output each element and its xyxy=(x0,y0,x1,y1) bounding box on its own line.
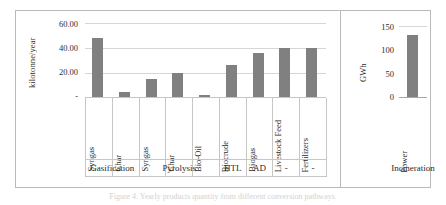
category-incineration: Incineration xyxy=(377,160,446,177)
bar-biogas-ad xyxy=(253,53,264,97)
bar-livestock-feed xyxy=(279,48,290,97)
bar-syngas-pyrolysis xyxy=(146,79,157,98)
right-plot-area xyxy=(400,26,426,97)
bar-slot-biogas xyxy=(246,23,273,97)
x-axis-label-grid: Syngas Char Syngas Char Bio-Oil Biocrude… xyxy=(85,97,326,177)
category-gasification: Gasification xyxy=(86,160,140,177)
panel-divider xyxy=(340,11,341,187)
x-axis-label-grid-right: Power Incineration xyxy=(399,97,427,177)
bar-biocrude-htl xyxy=(226,65,237,97)
left-plot-area xyxy=(85,23,326,97)
category-livestock-feed-dash: - xyxy=(273,160,300,177)
bar-slot-livestock-feed xyxy=(272,23,299,97)
bar-slot-biocrude xyxy=(219,23,246,97)
bar-slot-syngas-gas xyxy=(85,23,112,97)
y-tick-label-0-right: 0 xyxy=(366,92,394,102)
y-tick-label-0: - xyxy=(40,91,78,101)
category-row-right: Incineration xyxy=(399,160,427,177)
bar-syngas-gasification xyxy=(92,38,103,97)
bar-char-pyrolysis xyxy=(172,73,183,97)
bar-slot-fertilizers xyxy=(299,23,326,97)
y-tick-label-40: 40.00 xyxy=(40,43,78,53)
bar-slot-bio-oil xyxy=(192,23,219,97)
bar-slot-char-pyr xyxy=(165,23,192,97)
category-fertilizers-dash: - xyxy=(300,160,327,177)
category-ad: AD xyxy=(247,160,274,177)
y-tick-label-100: 100 xyxy=(366,45,394,55)
bar-slot-char-gas xyxy=(112,23,139,97)
category-pyrolysis: Pyrolysis xyxy=(140,160,220,177)
figure-caption: Figure 4. Yearly products quantity from … xyxy=(0,192,446,201)
figure-container: kilotonne/year 60.00 40.00 20.00 - xyxy=(0,0,446,205)
bar-slot-syngas-pyr xyxy=(139,23,166,97)
category-htl: HTL xyxy=(220,160,247,177)
y-axis-title-left: kilotonne/year xyxy=(27,32,37,88)
bar-fertilizers xyxy=(306,48,317,97)
bar-slot-power xyxy=(400,26,426,97)
bar-power-incineration xyxy=(407,35,418,97)
category-row: Gasification Pyrolysis HTL AD - - xyxy=(86,159,326,176)
y-tick-label-20: 20.00 xyxy=(40,67,78,77)
y-tick-label-50: 50 xyxy=(366,69,394,79)
y-tick-label-60: 60.00 xyxy=(40,19,78,29)
y-tick-label-150: 150 xyxy=(366,22,394,32)
